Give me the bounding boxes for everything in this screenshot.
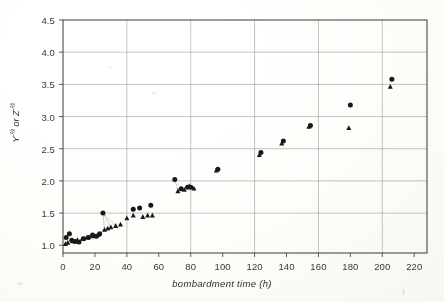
x-axis-tick-label: 180: [337, 261, 363, 272]
x-axis-tick-label: 220: [401, 261, 427, 272]
x-axis-tick-label: 100: [210, 261, 236, 272]
data-point-triangle: [150, 213, 155, 218]
y-axis-tick-label: 2.5: [29, 143, 55, 154]
x-axis-tick-label: 0: [50, 261, 76, 272]
data-point-circle: [348, 102, 353, 107]
y-axis-tick-label: 1.5: [29, 208, 55, 219]
x-axis-tick-label: 40: [114, 261, 140, 272]
y-axis-tick-label: 1.0: [29, 240, 55, 251]
data-point-circle: [172, 177, 177, 182]
y-axis-title-or: or Z: [11, 110, 21, 129]
data-point-circle: [148, 203, 153, 208]
scatter-chart: 1.01.52.02.53.03.54.04.50204060801001201…: [0, 0, 444, 302]
data-point-triangle: [388, 84, 393, 89]
data-point-triangle: [346, 125, 351, 130]
y-axis-tick-label: 4.5: [29, 15, 55, 26]
data-point-circle: [100, 211, 105, 216]
x-axis-tick-label: 200: [369, 261, 395, 272]
data-point-triangle: [124, 215, 129, 220]
y-axis-title: Y-½ or Z-½: [10, 99, 21, 113]
data-point-circle: [389, 77, 394, 82]
series-circles: [64, 77, 395, 245]
data-point-circle: [67, 231, 72, 236]
plot-frame: [63, 20, 427, 253]
data-point-circle: [131, 207, 136, 212]
data-point-triangle: [145, 213, 150, 218]
data-point-triangle: [131, 213, 136, 218]
x-axis-tick-label: 120: [242, 261, 268, 272]
y-axis-tick-label: 3.0: [29, 111, 55, 122]
y-axis-exponent-2: -½: [9, 103, 16, 111]
data-point-circle: [137, 205, 142, 210]
y-axis-tick-label: 2.0: [29, 175, 55, 186]
x-axis-title: bombardment time (h): [0, 278, 444, 289]
x-axis-tick-label: 20: [82, 261, 108, 272]
y-axis-title-y: Y: [11, 136, 21, 142]
y-axis-exponent-1: -½: [9, 129, 16, 137]
y-axis-tick-label: 3.5: [29, 79, 55, 90]
point-connector: [103, 213, 116, 226]
data-point-circle: [64, 235, 69, 240]
series-triangles: [63, 84, 393, 246]
data-point-triangle: [140, 214, 145, 219]
x-axis-tick-label: 140: [274, 261, 300, 272]
data-point-triangle: [113, 223, 118, 228]
x-axis-tick-label: 80: [178, 261, 204, 272]
data-point-triangle: [108, 224, 113, 229]
x-axis-tick-label: 160: [305, 261, 331, 272]
y-axis-tick-label: 4.0: [29, 47, 55, 58]
plot-canvas: [0, 0, 444, 302]
data-point-triangle: [118, 222, 123, 227]
x-axis-tick-label: 60: [146, 261, 172, 272]
